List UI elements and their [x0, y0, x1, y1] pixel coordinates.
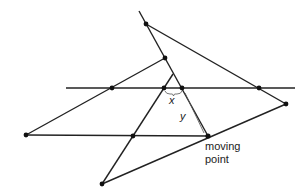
point-upper[interactable]: [163, 56, 168, 61]
point-top[interactable]: [144, 22, 149, 27]
moving-point[interactable]: [205, 133, 210, 138]
point-horizontal-center-left[interactable]: [162, 86, 167, 91]
point-right[interactable]: [284, 102, 289, 107]
point-horizontal-center-right[interactable]: [180, 86, 185, 91]
label-x: x: [168, 94, 175, 106]
label-point: point: [205, 153, 229, 165]
segment-left-upper: [26, 58, 165, 135]
point-bottom[interactable]: [100, 182, 105, 187]
transversal-line: [139, 11, 208, 136]
label-y: y: [179, 110, 187, 122]
segment-top-right: [146, 24, 286, 104]
y-bracket: [185, 93, 204, 133]
point-horizontal-right[interactable]: [257, 86, 262, 91]
point-horizontal-left[interactable]: [110, 86, 115, 91]
segment-bottom-right: [102, 104, 286, 184]
point-lower-middle[interactable]: [131, 134, 136, 139]
segment-bottom-horizontal: [26, 135, 208, 136]
geometry-diagram: x y moving point: [0, 0, 308, 195]
segment-bottom-to-apex: [102, 74, 173, 184]
point-left[interactable]: [24, 133, 29, 138]
label-moving: moving: [205, 140, 240, 152]
